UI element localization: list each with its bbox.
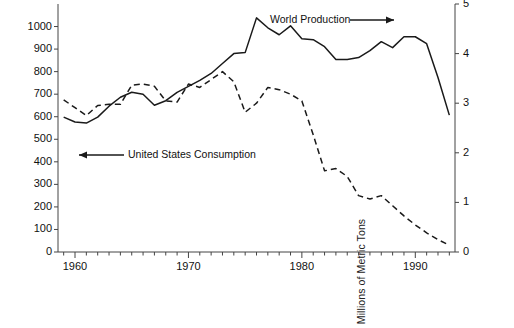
y-axis-right-ticks [455, 4, 459, 252]
tick-label: 900 [18, 42, 52, 54]
annotation-world-production: World Production [270, 13, 350, 25]
tick-label: 2 [463, 146, 489, 158]
tick-label: 3 [463, 96, 489, 108]
tick-label: 700 [18, 87, 52, 99]
tick-label: 5 [463, 0, 489, 9]
axis-lines [58, 4, 455, 252]
annotation-us-consumption: United States Consumption [128, 148, 256, 160]
tick-label: 800 [18, 65, 52, 77]
tick-label: 300 [18, 177, 52, 189]
tick-label: 1990 [395, 260, 435, 272]
tick-label: 1970 [168, 260, 208, 272]
tick-label: 1000 [18, 20, 52, 32]
y-axis-left-ticks [54, 27, 58, 252]
x-axis-ticks [64, 252, 450, 258]
tick-label: 400 [18, 155, 52, 167]
tick-label: 1960 [55, 260, 95, 272]
tick-label: 0 [463, 245, 489, 257]
series-line-world-production [64, 18, 450, 123]
tick-label: 100 [18, 222, 52, 234]
tick-label: 0 [18, 245, 52, 257]
us-consumption-arrow [79, 152, 124, 159]
tick-label: 600 [18, 110, 52, 122]
tick-label: 4 [463, 47, 489, 59]
tick-label: 200 [18, 200, 52, 212]
tick-label: 1 [463, 195, 489, 207]
world-production-arrow [350, 17, 394, 24]
tick-label: 500 [18, 132, 52, 144]
tick-label: 1980 [282, 260, 322, 272]
series-line-us-consumption [64, 72, 450, 246]
